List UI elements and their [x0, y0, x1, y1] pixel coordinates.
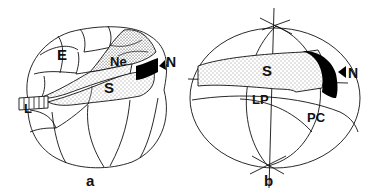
label-PC: PC	[307, 110, 326, 125]
label-L: L	[24, 101, 32, 116]
arrowhead-a	[159, 60, 166, 70]
arrowhead-b	[338, 66, 346, 78]
caption-b: b	[264, 172, 273, 189]
label-S-a: S	[104, 79, 114, 96]
label-Ne: Ne	[110, 54, 127, 69]
caption-a: a	[86, 172, 95, 189]
label-N-a: N	[166, 54, 176, 70]
label-E: E	[57, 46, 67, 63]
panel-b-sphere	[188, 8, 360, 188]
label-LP: LP	[252, 92, 269, 107]
label-N-b: N	[348, 65, 358, 81]
label-S-b: S	[262, 62, 272, 79]
